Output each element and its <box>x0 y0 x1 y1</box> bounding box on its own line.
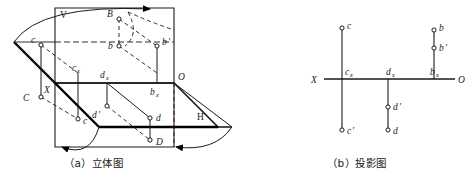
point-D-marker <box>148 138 152 142</box>
projection-point-b-marker <box>432 28 436 32</box>
point-c-prime-marker <box>76 117 80 121</box>
point-B-construction <box>119 12 174 83</box>
label-point-b-prime: b ′ <box>162 37 171 47</box>
projection-label-c-prime: c ′ <box>347 126 355 136</box>
svg-text:′: ′ <box>352 126 355 136</box>
projection-label-dx: d x <box>386 67 395 78</box>
svg-text:x: x <box>76 67 80 74</box>
descriptive-geometry-figure: V H O X B b b ′ b x C c c ′ c x <box>0 0 473 174</box>
projection-point-b-prime-marker <box>432 46 436 50</box>
svg-text:x: x <box>391 71 395 78</box>
label-point-d: d <box>156 113 161 123</box>
rotation-arc-bottom-right <box>176 127 232 148</box>
projection-label-d-prime: d ′ <box>393 102 402 112</box>
projection-label-bx: b x <box>430 67 439 78</box>
point-D-construction <box>107 83 150 140</box>
label-point-c-prime: c ′ <box>83 116 91 126</box>
projection-label-b: b <box>439 23 444 33</box>
point-d-marker <box>148 116 152 120</box>
projection-point-d-prime-marker <box>386 105 390 109</box>
svg-text:d: d <box>92 110 97 120</box>
projection-label-cx: c x <box>345 67 353 78</box>
svg-text:′: ′ <box>445 43 448 53</box>
label-point-C: C <box>23 93 30 103</box>
svg-text:b: b <box>150 87 155 97</box>
svg-text:x: x <box>155 91 159 98</box>
left-wedge-outline <box>14 42 174 83</box>
svg-text:b: b <box>430 67 435 77</box>
figure-root: V H O X B b b ′ b x C c c ′ c x <box>0 0 473 174</box>
point-b-prime-marker <box>155 44 159 48</box>
label-h-plane: H <box>197 112 204 122</box>
point-b-marker <box>117 44 121 48</box>
svg-text:x: x <box>435 71 439 78</box>
svg-text:d: d <box>100 70 105 80</box>
label-point-c: c <box>31 35 36 45</box>
caption-solid-view: （a）立体图 <box>64 155 123 170</box>
point-B-marker <box>117 17 121 21</box>
label-axis-x: X <box>43 85 51 95</box>
svg-text:′: ′ <box>399 102 402 112</box>
svg-text:x: x <box>105 74 109 81</box>
caption-projection-view: （b）投影图 <box>327 155 387 170</box>
solid-view-group: V H O X B b b ′ b x C c c ′ c x <box>14 8 232 150</box>
projection-label-d: d <box>393 126 398 136</box>
svg-text:′: ′ <box>168 37 171 47</box>
svg-text:′: ′ <box>98 110 101 120</box>
point-c-marker <box>39 43 43 47</box>
projection-point-c-prime-marker <box>340 128 344 132</box>
projection-label-o: O <box>458 75 465 85</box>
projection-label-b-prime: b ′ <box>439 43 448 53</box>
point-d-prime-marker <box>105 104 109 108</box>
svg-text:b: b <box>439 43 444 53</box>
label-point-b: b <box>108 41 113 51</box>
svg-text:x: x <box>349 71 353 78</box>
label-point-d-prime: d ′ <box>92 110 101 120</box>
point-C-marker <box>39 95 43 99</box>
label-origin-o: O <box>178 72 185 82</box>
projection-point-c-marker <box>340 26 344 30</box>
svg-text:d: d <box>386 67 391 77</box>
rotation-arc-bottom-left <box>62 127 99 150</box>
projection-view-group: X O c c x c ′ d x d ′ d b b <box>310 21 465 136</box>
label-point-B: B <box>107 9 113 19</box>
projection-label-c: c <box>347 21 352 31</box>
label-point-dx: d x <box>100 70 109 81</box>
label-point-D: D <box>155 137 163 147</box>
label-v-plane: V <box>60 10 67 20</box>
svg-text:b: b <box>162 37 167 47</box>
projection-point-d-marker <box>386 128 390 132</box>
label-point-cx: c x <box>72 63 80 74</box>
label-point-bx: b x <box>150 87 159 98</box>
svg-text:d: d <box>393 102 398 112</box>
projection-label-x: X <box>310 75 318 85</box>
point-C-construction <box>41 45 78 119</box>
